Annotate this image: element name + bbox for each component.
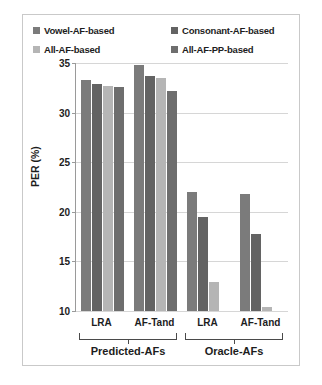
legend-item-all-af-pp-based: All-AF-PP-based <box>171 40 291 59</box>
bar <box>103 86 114 311</box>
y-axis-tick-label: 25 <box>59 157 70 168</box>
group-label: Predicted-AFs <box>79 345 177 357</box>
y-axis-title: PER (%) <box>29 146 41 187</box>
y-axis-tick-label: 15 <box>59 256 70 267</box>
group-bracket-stem <box>234 340 235 344</box>
legend-swatch-icon <box>171 46 178 53</box>
bar <box>81 80 92 311</box>
y-axis-tick <box>72 63 76 64</box>
x-axis-tick-label: AF-Tand <box>234 317 287 328</box>
legend-swatch-icon <box>33 27 40 34</box>
group-bracket <box>185 333 283 340</box>
y-axis-tick <box>72 261 76 262</box>
chart-figure: Vowel-AF-based Consonant-AF-based All-AF… <box>22 14 300 366</box>
bar <box>92 84 103 311</box>
legend-item-consonant-af-based: Consonant-AF-based <box>171 21 291 40</box>
group-bracket <box>79 333 177 340</box>
y-axis-tick-label: 35 <box>59 58 70 69</box>
legend-label: All-AF-based <box>44 44 100 55</box>
y-axis-tick-label: 20 <box>59 206 70 217</box>
legend-label: Vowel-AF-based <box>44 25 114 36</box>
y-axis-tick-label: 10 <box>59 306 70 317</box>
x-axis-tick-label: AF-Tand <box>128 317 181 328</box>
legend-swatch-icon <box>33 46 40 53</box>
bar <box>156 78 167 311</box>
legend-row-2: All-AF-based All-AF-PP-based <box>33 40 291 59</box>
legend-swatch-icon <box>171 27 178 34</box>
gridline <box>76 63 288 64</box>
bar <box>240 194 251 311</box>
plot-area: 101520253035 <box>75 63 288 312</box>
group-bracket-stem <box>128 340 129 344</box>
bar <box>262 307 273 311</box>
bar <box>251 234 262 311</box>
bar <box>209 282 220 311</box>
bar <box>134 65 145 311</box>
bar <box>198 217 209 311</box>
chart-legend: Vowel-AF-based Consonant-AF-based All-AF… <box>33 21 291 59</box>
bar <box>167 91 178 311</box>
y-axis-tick-label: 30 <box>59 107 70 118</box>
legend-label: Consonant-AF-based <box>182 25 274 36</box>
y-axis-tick <box>72 113 76 114</box>
x-axis-tick-label: LRA <box>181 317 234 328</box>
legend-item-vowel-af-based: Vowel-AF-based <box>33 21 171 40</box>
y-axis-tick <box>72 212 76 213</box>
gridline <box>76 311 288 312</box>
legend-label: All-AF-PP-based <box>182 44 253 55</box>
group-label: Oracle-AFs <box>185 345 283 357</box>
bar <box>114 87 125 311</box>
bar <box>187 192 198 311</box>
legend-item-all-af-based: All-AF-based <box>33 40 171 59</box>
bar <box>145 76 156 311</box>
legend-row-1: Vowel-AF-based Consonant-AF-based <box>33 21 291 40</box>
y-axis-tick <box>72 162 76 163</box>
x-axis-tick-label: LRA <box>75 317 128 328</box>
y-axis-tick <box>72 311 76 312</box>
